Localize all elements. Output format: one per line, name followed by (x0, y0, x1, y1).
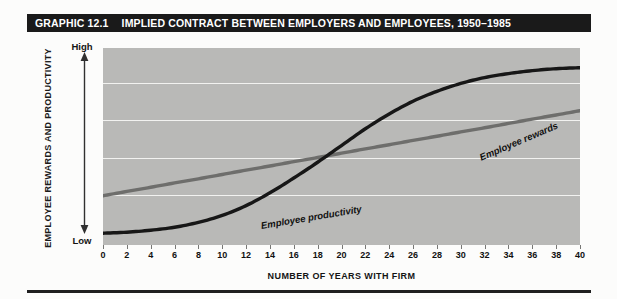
y-axis-range-arrow-icon (80, 52, 89, 234)
y-axis-title: EMPLOYEE REWARDS AND PRODUCTIVITY (43, 38, 53, 258)
x-axis-tick (127, 245, 128, 249)
x-axis-tick (365, 245, 366, 249)
x-axis-tick-label: 6 (162, 250, 188, 260)
x-axis-tick-label: 40 (567, 250, 593, 260)
x-axis-tick (151, 245, 152, 249)
x-axis-tick (103, 245, 104, 249)
figure-title-bar: GRAPHIC 12.1 IMPLIED CONTRACT BETWEEN EM… (27, 14, 591, 32)
x-axis-tick-label: 0 (90, 250, 116, 260)
x-axis-tick-label: 8 (185, 250, 211, 260)
x-axis-tick (461, 245, 462, 249)
x-axis-tick (222, 245, 223, 249)
x-axis-tick-label: 10 (209, 250, 235, 260)
employee-productivity-line (103, 111, 580, 196)
x-axis-tick-label: 34 (495, 250, 521, 260)
x-axis-tick-label: 16 (281, 250, 307, 260)
x-axis-tick (508, 245, 509, 249)
y-axis-high-label: High (60, 41, 104, 52)
x-axis-tick (342, 245, 343, 249)
x-axis-tick (294, 245, 295, 249)
figure-number-label: GRAPHIC 12.1 (35, 17, 109, 29)
x-axis-tick-label: 26 (400, 250, 426, 260)
figure-page: GRAPHIC 12.1 IMPLIED CONTRACT BETWEEN EM… (0, 0, 617, 299)
x-axis-title: NUMBER OF YEARS WITH FIRM (103, 271, 580, 281)
x-axis-tick (246, 245, 247, 249)
x-axis-tick (318, 245, 319, 249)
x-axis-tick (198, 245, 199, 249)
x-axis-tick-label: 36 (519, 250, 545, 260)
x-axis-tick (532, 245, 533, 249)
x-axis-tick-label: 24 (376, 250, 402, 260)
x-axis-tick (556, 245, 557, 249)
x-axis-tick-label: 14 (257, 250, 283, 260)
x-axis-tick-label: 4 (138, 250, 164, 260)
x-axis-tick (175, 245, 176, 249)
x-axis-tick-label: 38 (543, 250, 569, 260)
x-axis-tick-labels: 0246810121416182022242628303234363840 (103, 250, 580, 264)
x-axis-tick-label: 30 (448, 250, 474, 260)
x-axis-tick-label: 20 (329, 250, 355, 260)
x-axis-tick (389, 245, 390, 249)
x-axis-tick (580, 245, 581, 249)
x-axis-tick (270, 245, 271, 249)
x-axis-tick (437, 245, 438, 249)
x-axis-tick-label: 32 (472, 250, 498, 260)
x-axis-tick-label: 2 (114, 250, 140, 260)
plot-area: Employee productivity Employee rewards (103, 48, 580, 245)
x-axis-tick-label: 22 (352, 250, 378, 260)
figure-bottom-rule (27, 290, 591, 293)
x-axis-tick-label: 12 (233, 250, 259, 260)
y-axis-low-label: Low (60, 235, 104, 246)
x-axis-tick (485, 245, 486, 249)
figure-title: IMPLIED CONTRACT BETWEEN EMPLOYERS AND E… (122, 17, 511, 29)
x-axis-tick-label: 28 (424, 250, 450, 260)
x-axis-tick (413, 245, 414, 249)
x-axis-tick-label: 18 (305, 250, 331, 260)
